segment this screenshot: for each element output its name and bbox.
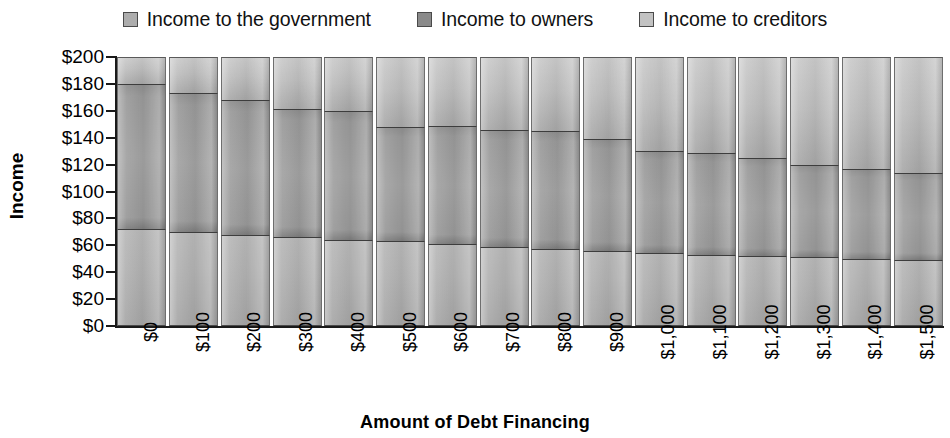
y-axis-tick	[106, 298, 116, 300]
bar-segment-government[interactable]	[480, 57, 529, 130]
bar-segment-owners[interactable]	[894, 173, 943, 260]
x-axis-tick-cell: $300	[271, 328, 323, 408]
bar-segment-owners[interactable]	[169, 93, 218, 232]
y-axis-tick	[106, 110, 116, 112]
bar-segment-government[interactable]	[583, 57, 632, 139]
bar-column[interactable]	[375, 57, 427, 326]
legend-item-creditors: Income to creditors	[639, 8, 827, 31]
bar-segment-owners[interactable]	[221, 100, 270, 235]
x-axis-tick-label: $1,000	[659, 304, 677, 359]
x-axis-tick-cell: $1,300	[789, 328, 841, 408]
x-axis-tick-cell: $600	[427, 328, 479, 408]
x-axis-tick-cell: $900	[582, 328, 634, 408]
y-axis-tick-label: $100	[32, 182, 104, 201]
bar-column[interactable]	[323, 57, 375, 326]
y-axis-tick	[106, 164, 116, 166]
x-axis-labels: $0$100$200$300$400$500$600$700$800$900$1…	[116, 328, 944, 408]
bar-segment-owners[interactable]	[273, 109, 322, 237]
x-axis-tick-cell: $400	[323, 328, 375, 408]
bar-series-container	[116, 57, 944, 326]
y-axis-labels: $200$180$160$140$120$100$80$60$40$20$0	[20, 0, 104, 438]
x-axis-tick-cell: $1,500	[892, 328, 944, 408]
x-axis-tick-label: $900	[608, 312, 626, 352]
bar-column[interactable]	[737, 57, 789, 326]
bar-segment-government[interactable]	[635, 57, 684, 151]
bar-segment-owners[interactable]	[117, 84, 166, 229]
y-axis-tick	[106, 191, 116, 193]
x-axis-tick-label: $200	[245, 312, 263, 352]
bar-segment-government[interactable]	[842, 57, 891, 169]
y-axis-tick	[106, 244, 116, 246]
y-axis-tick	[106, 56, 116, 58]
bar-column[interactable]	[634, 57, 686, 326]
bar-segment-government[interactable]	[376, 57, 425, 127]
y-axis-tick-label: $180	[32, 74, 104, 93]
bar-segment-owners[interactable]	[324, 111, 373, 240]
y-axis-tick-label: $20	[32, 289, 104, 308]
legend-label-owners: Income to owners	[441, 8, 593, 31]
bar-column[interactable]	[168, 57, 220, 326]
bar-segment-owners[interactable]	[842, 169, 891, 259]
plot-area	[116, 57, 944, 326]
bar-segment-government[interactable]	[428, 57, 477, 126]
bar-column[interactable]	[271, 57, 323, 326]
bar-segment-government[interactable]	[531, 57, 580, 131]
x-axis-tick-label: $100	[194, 312, 212, 352]
bar-segment-owners[interactable]	[738, 158, 787, 256]
stacked-bar-chart: Income to the government Income to owner…	[0, 0, 950, 438]
bar-segment-owners[interactable]	[583, 139, 632, 251]
bar-segment-government[interactable]	[221, 57, 270, 100]
bar-column[interactable]	[892, 57, 944, 326]
bar-segment-government[interactable]	[738, 57, 787, 158]
bar-segment-government[interactable]	[687, 57, 736, 152]
legend-item-government: Income to the government	[123, 8, 371, 31]
x-axis-tick-cell: $100	[168, 328, 220, 408]
x-axis-tick-cell: $1,000	[634, 328, 686, 408]
legend-swatch-owners	[417, 12, 432, 27]
x-axis-tick-label: $800	[556, 312, 574, 352]
legend-swatch-government	[123, 12, 138, 27]
x-axis-tick-label: $1,500	[918, 304, 936, 359]
y-axis-tick-label: $0	[32, 316, 104, 335]
bar-segment-government[interactable]	[169, 57, 218, 93]
bar-segment-government[interactable]	[790, 57, 839, 165]
bar-column[interactable]	[116, 57, 168, 326]
x-axis-tick-cell: $800	[530, 328, 582, 408]
bar-segment-government[interactable]	[324, 57, 373, 111]
bar-column[interactable]	[478, 57, 530, 326]
legend-label-government: Income to the government	[147, 8, 371, 31]
bar-column[interactable]	[789, 57, 841, 326]
bar-column[interactable]	[530, 57, 582, 326]
y-axis-tick-label: $40	[32, 262, 104, 281]
bar-column[interactable]	[427, 57, 479, 326]
bar-segment-owners[interactable]	[376, 127, 425, 241]
bar-segment-government[interactable]	[273, 57, 322, 109]
x-axis-tick-label: $400	[349, 312, 367, 352]
legend-item-owners: Income to owners	[417, 8, 593, 31]
bar-segment-owners[interactable]	[790, 165, 839, 258]
y-axis-tick-label: $160	[32, 101, 104, 120]
y-axis-tick	[106, 83, 116, 85]
y-axis-tick-label: $60	[32, 235, 104, 254]
bar-segment-owners[interactable]	[687, 153, 736, 255]
bar-segment-creditors[interactable]	[117, 229, 166, 326]
bar-segment-owners[interactable]	[480, 130, 529, 247]
bar-segment-government[interactable]	[894, 57, 943, 173]
y-axis-tick-label: $120	[32, 155, 104, 174]
bar-column[interactable]	[841, 57, 893, 326]
bar-column[interactable]	[220, 57, 272, 326]
bar-column[interactable]	[582, 57, 634, 326]
bar-column[interactable]	[685, 57, 737, 326]
legend-swatch-creditors	[639, 12, 654, 27]
bar-segment-owners[interactable]	[531, 131, 580, 249]
legend-label-creditors: Income to creditors	[663, 8, 827, 31]
y-axis-tick	[106, 325, 116, 327]
y-axis-tick-label: $140	[32, 128, 104, 147]
bar-segment-owners[interactable]	[428, 126, 477, 244]
x-axis-tick-label: $0	[142, 322, 160, 342]
x-axis-tick-cell: $1,100	[685, 328, 737, 408]
x-axis-tick-label: $1,100	[711, 304, 729, 359]
bar-segment-government[interactable]	[117, 57, 166, 84]
x-axis-tick-cell: $1,400	[841, 328, 893, 408]
bar-segment-owners[interactable]	[635, 151, 684, 253]
